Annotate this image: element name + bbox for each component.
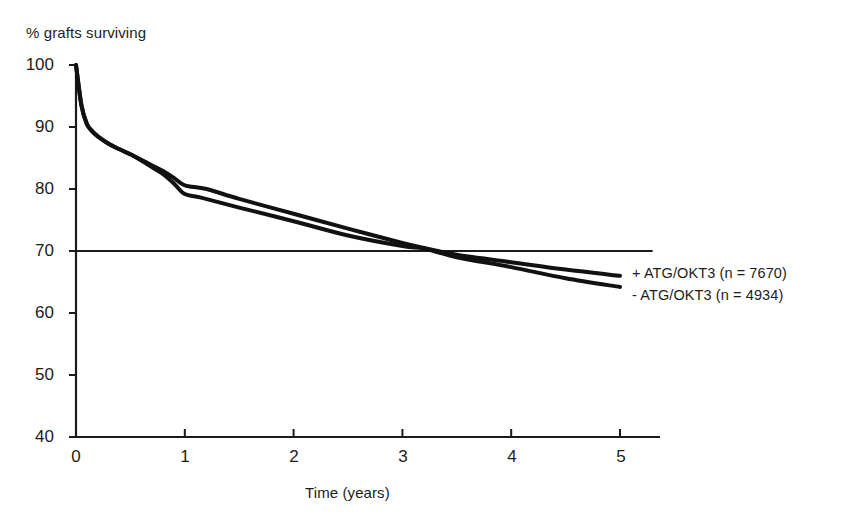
survival-chart: % grafts surviving Time (years) 100 90 8… <box>0 0 847 528</box>
plot-area <box>0 0 847 528</box>
series-line-minus-atg-okt3 <box>76 65 620 287</box>
x-axis-ticks <box>76 429 620 437</box>
